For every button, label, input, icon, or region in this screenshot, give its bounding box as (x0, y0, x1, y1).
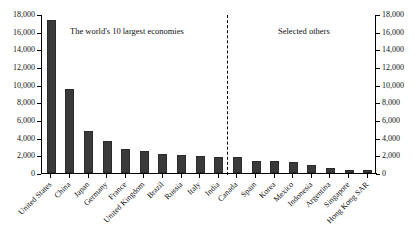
bar-slot (98, 15, 117, 173)
y-axis-label-right-18000: 18,000 (382, 11, 404, 19)
bar-slot (135, 15, 154, 173)
bar-slot (228, 15, 247, 173)
bar (140, 151, 149, 173)
bar-slot (358, 15, 377, 173)
bar-slot (321, 15, 340, 173)
y-axis-label-right-12000: 12,000 (382, 64, 404, 72)
bar (196, 156, 205, 173)
bar (289, 162, 298, 173)
x-tick (162, 174, 163, 178)
y-axis-label-right-4000: 4,000 (382, 135, 400, 143)
bar (252, 161, 261, 173)
y-axis-label-left-8000: 8,000 (17, 99, 35, 107)
group-caption-right: Selected others (278, 26, 330, 36)
bar (177, 155, 186, 173)
bar-slot (210, 15, 229, 173)
x-axis-category-label: Brazil (145, 180, 165, 200)
bar-slot (79, 15, 98, 173)
bar-slot (172, 15, 191, 173)
x-axis-category-label: United States (17, 180, 54, 217)
y-tick-left-4000 (37, 139, 41, 140)
bar-series (42, 15, 375, 173)
y-axis-label-left-14000: 14,000 (13, 46, 35, 54)
y-tick-left-6000 (37, 121, 41, 122)
plot-area: 18,00016,00014,00012,00010,0008,0006,000… (41, 15, 376, 174)
y-axis-label-left-0: 0 (31, 170, 35, 178)
y-axis-label-right-0: 0 (382, 170, 386, 178)
bar-chart: 18,00016,00014,00012,00010,0008,0006,000… (0, 0, 415, 252)
x-axis-category-labels: United StatesChinaJapanGermanyFranceUnit… (0, 180, 415, 252)
x-tick (329, 174, 330, 178)
x-tick (69, 174, 70, 178)
bar (345, 170, 354, 173)
y-axis-label-left-4000: 4,000 (17, 135, 35, 143)
bar (214, 157, 223, 173)
y-axis-label-right-10000: 10,000 (382, 82, 404, 90)
x-tick (292, 174, 293, 178)
bar (65, 89, 74, 173)
y-axis-label-left-18000: 18,000 (13, 11, 35, 19)
bar-slot (340, 15, 359, 173)
y-axis-label-left-16000: 16,000 (13, 29, 35, 37)
bar-slot (116, 15, 135, 173)
x-tick (367, 174, 368, 178)
y-axis-label-right-14000: 14,000 (382, 46, 404, 54)
bar (84, 131, 93, 173)
bar (121, 149, 130, 173)
y-axis-label-right-6000: 6,000 (382, 117, 400, 125)
x-tick (218, 174, 219, 178)
bar (270, 161, 279, 173)
y-tick-left-2000 (37, 156, 41, 157)
y-tick-left-16000 (37, 33, 41, 34)
x-tick (199, 174, 200, 178)
x-tick (143, 174, 144, 178)
x-tick (50, 174, 51, 178)
x-axis-category-label: Canada (216, 180, 239, 203)
x-tick (88, 174, 89, 178)
x-tick (181, 174, 182, 178)
y-axis-label-left-6000: 6,000 (17, 117, 35, 125)
x-tick (236, 174, 237, 178)
y-axis-label-right-8000: 8,000 (382, 99, 400, 107)
y-axis-label-left-2000: 2,000 (17, 152, 35, 160)
x-tick (255, 174, 256, 178)
y-tick-right-0 (376, 174, 380, 175)
x-axis-category-label: Italy (186, 180, 203, 197)
x-tick (106, 174, 107, 178)
x-axis-category-label: China (52, 180, 72, 200)
bar-slot (265, 15, 284, 173)
y-tick-left-14000 (37, 50, 41, 51)
bar (103, 141, 112, 173)
y-tick-left-8000 (37, 103, 41, 104)
bar (233, 157, 242, 173)
bar-slot (61, 15, 80, 173)
y-tick-left-18000 (37, 15, 41, 16)
y-tick-left-0 (37, 174, 41, 175)
bar-slot (42, 15, 61, 173)
x-tick (274, 174, 275, 178)
x-tick (311, 174, 312, 178)
group-divider (227, 15, 228, 175)
y-axis-label-right-16000: 16,000 (382, 29, 404, 37)
x-axis (41, 173, 377, 174)
y-tick-left-12000 (37, 68, 41, 69)
bar (363, 170, 372, 173)
y-axis-label-left-10000: 10,000 (13, 82, 35, 90)
x-tick (348, 174, 349, 178)
x-axis-category-label: Russia (162, 180, 183, 201)
bar (307, 165, 316, 173)
bar (158, 154, 167, 173)
y-tick-left-10000 (37, 86, 41, 87)
bar-slot (191, 15, 210, 173)
bar-slot (303, 15, 322, 173)
x-axis-category-label: Spain (239, 180, 258, 199)
group-caption-left: The world's 10 largest economies (70, 26, 184, 36)
bar (47, 20, 56, 173)
y-axis-label-right-2000: 2,000 (382, 152, 400, 160)
bar (326, 168, 335, 173)
bar-slot (154, 15, 173, 173)
bar-slot (284, 15, 303, 173)
bar-slot (247, 15, 266, 173)
x-tick (125, 174, 126, 178)
y-axis-label-left-12000: 12,000 (13, 64, 35, 72)
